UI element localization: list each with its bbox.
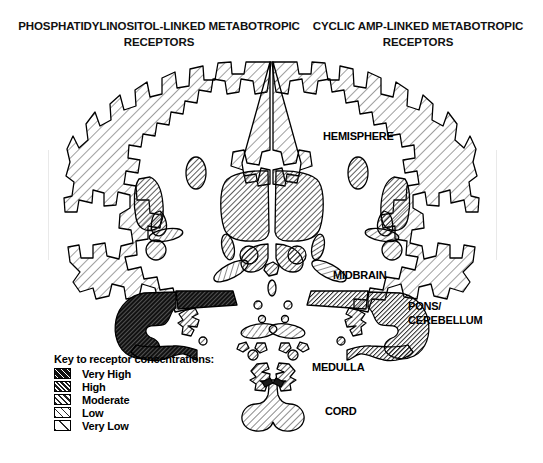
legend-item-very-high: Very High: [54, 367, 234, 380]
spinal-cord: [242, 380, 304, 431]
medullary-dot-left-d: [199, 337, 207, 345]
cerebellar-nucleus-right: [345, 308, 366, 336]
legend-item-high: High: [54, 380, 234, 393]
thalamus-right: [275, 171, 323, 241]
nucleus-oval-left: [186, 157, 206, 189]
midline-cluster-upper: [264, 262, 279, 276]
label-cord: CORD: [325, 405, 357, 419]
cerebellar-nucleus-left: [178, 308, 199, 336]
legend-item-very-low: Very Low: [54, 419, 234, 432]
legend-label-high: High: [82, 381, 106, 393]
thalamus-left: [221, 171, 269, 241]
raphe-dot-2: [284, 301, 292, 309]
legend-label-very-low: Very Low: [82, 420, 129, 432]
nucleus-circle-left: [146, 240, 166, 260]
swatch-high-icon: [54, 381, 71, 392]
legend-label-moderate: Moderate: [82, 394, 129, 406]
medullary-dot-right-a: [297, 342, 309, 352]
swatch-very-high-icon: [54, 368, 71, 379]
legend-title: Key to receptor concentrations:: [54, 353, 234, 365]
label-pons-cerebellum: PONS/ CEREBELLUM: [408, 300, 482, 327]
raphe-dot-3: [259, 316, 266, 323]
raphe-dot-1: [254, 301, 262, 309]
legend: Key to receptor concentrations: Very Hig…: [54, 353, 234, 432]
swatch-moderate-icon: [54, 394, 71, 405]
pons-cerebellum-right-tail: [347, 345, 413, 361]
medullary-dot-right-d: [337, 337, 345, 345]
swatch-very-low-icon: [54, 420, 71, 431]
vestibular-wing-right: [268, 322, 306, 341]
label-midbrain: MIDBRAIN: [333, 269, 386, 283]
pons-cerebellum-left-arm: [176, 291, 237, 309]
legend-item-low: Low: [54, 406, 234, 419]
label-hemisphere: HEMISPHERE: [323, 130, 394, 144]
medullary-dot-left-c: [248, 350, 258, 360]
red-nucleus-right: [288, 246, 306, 264]
label-medulla: MEDULLA: [312, 361, 364, 375]
raphe-dot-4: [282, 316, 289, 323]
legend-label-low: Low: [82, 407, 103, 419]
medulla-left: [250, 363, 270, 391]
legend-label-very-high: Very High: [82, 368, 131, 380]
figure-canvas: PHOSPHATIDYLINOSITOL-LINKED METABOTROPIC…: [0, 0, 543, 463]
medullary-dot-right-c: [288, 350, 298, 360]
pons-cerebellum-right-arm: [307, 291, 368, 309]
medullary-dot-left-a: [237, 342, 249, 352]
medulla-right: [276, 363, 296, 391]
swatch-low-icon: [54, 407, 71, 418]
nucleus-circle-right: [382, 240, 402, 260]
nucleus-oval-right: [348, 157, 368, 189]
legend-item-moderate: Moderate: [54, 393, 234, 406]
midline-cluster-lower: [268, 280, 276, 296]
